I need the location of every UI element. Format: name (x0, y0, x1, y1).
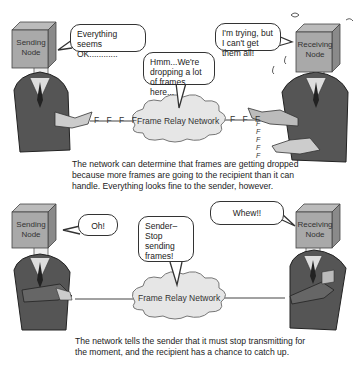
sender-speech-bubble: Oh! (78, 214, 118, 236)
receiving-node-label: Receiving Node (297, 220, 333, 239)
frames-dropped: F F F F F (256, 120, 260, 160)
sending-node-label: Sending Node (13, 38, 49, 57)
caption: The network tells the sender that it mus… (75, 336, 315, 358)
cloud-label: Frame Relay Network (137, 116, 219, 126)
receiver-speech-bubble: Whew!! (210, 201, 284, 225)
cloud-label: Frame Relay Network (138, 293, 220, 303)
receiver-speech-bubble: I'm trying, but I can't get them all! (215, 23, 281, 51)
network-speech-bubble: Sender– Stop sending frames! (138, 216, 194, 262)
network-speech-bubble: Hmm...We're dropping a lot of frames her… (143, 52, 215, 85)
caption: The network can determine that frames ar… (72, 159, 304, 192)
sender-speech-bubble: Everything seems OK............ (70, 24, 146, 52)
receiving-node-label: Receiving Node (297, 40, 333, 59)
sending-node-label: Sending Node (13, 220, 49, 239)
frames-incoming: F F F F (94, 115, 139, 125)
